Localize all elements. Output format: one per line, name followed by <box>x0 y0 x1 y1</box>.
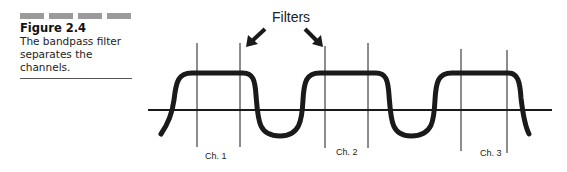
left-arrow-icon <box>246 29 265 47</box>
channel-3-label: Ch. 3 <box>480 148 502 158</box>
right-arrow-icon <box>305 29 323 47</box>
channel-2-label: Ch. 2 <box>336 147 358 157</box>
channel-1-label: Ch. 1 <box>205 151 227 161</box>
channel-boundaries <box>197 43 507 153</box>
bandpass-filter-diagram: Filters Ch. 1 Ch. 2 Ch. 3 <box>0 0 567 172</box>
filters-annotation: Filters <box>272 9 310 25</box>
filter-response-curve <box>161 73 529 136</box>
